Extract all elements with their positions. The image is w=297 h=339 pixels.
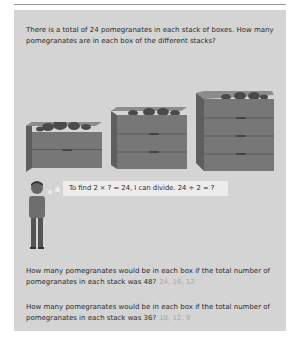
question-36: How many pomegranates would be in each b… (26, 302, 281, 323)
box-stack-4 (196, 91, 276, 173)
question-text: How many pomegranates would be in each b… (26, 303, 270, 322)
thought-dot (55, 187, 60, 192)
thought-dot (48, 190, 52, 194)
question-answer: 24, 16, 12 (159, 278, 195, 286)
box-stack-2 (26, 122, 104, 172)
child-figure (24, 180, 50, 252)
top-rule (14, 4, 286, 5)
question-48: How many pomegranates would be in each b… (26, 266, 281, 287)
intro-text: There is a total of 24 pomegranates in e… (26, 25, 281, 46)
question-answer: 18, 12, 9 (159, 314, 190, 322)
box-stack-3 (111, 107, 191, 171)
question-text: How many pomegranates would be in each b… (26, 267, 270, 286)
speech-bubble: To find 2 × ? = 24, I can divide. 24 ÷ 2… (63, 181, 228, 196)
